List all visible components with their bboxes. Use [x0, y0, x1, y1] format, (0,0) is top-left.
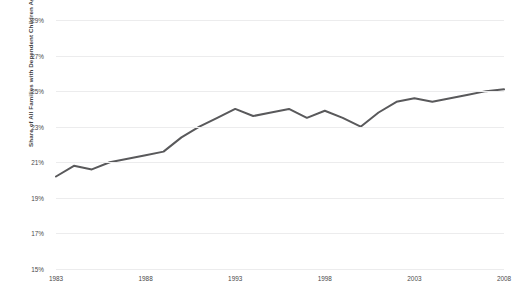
- plot-area: 29%27%25%23%21%19%17%15%1983198819931998…: [56, 20, 504, 269]
- x-axis-tick-label: 1983: [36, 275, 76, 282]
- y-axis-tick-label: 17%: [4, 230, 44, 237]
- gridline-y: [56, 91, 504, 92]
- y-axis-tick-label: 27%: [4, 52, 44, 59]
- gridline-y: [56, 127, 504, 128]
- gridline-y: [56, 20, 504, 21]
- gridline-y: [56, 56, 504, 57]
- gridline-y: [56, 269, 504, 270]
- x-axis-tick-label: 2003: [394, 275, 434, 282]
- y-axis-tick-label: 15%: [4, 266, 44, 273]
- y-axis-tick-label: 19%: [4, 194, 44, 201]
- y-axis-tick-label: 21%: [4, 159, 44, 166]
- x-axis-tick-label: 2008: [484, 275, 516, 282]
- data-series-line: [56, 20, 504, 269]
- x-axis-tick-label: 1988: [126, 275, 166, 282]
- y-axis-tick-label: 23%: [4, 123, 44, 130]
- series-polyline: [56, 89, 504, 176]
- x-axis-tick-label: 1993: [215, 275, 255, 282]
- gridline-y: [56, 162, 504, 163]
- y-axis-tick-label: 29%: [4, 17, 44, 24]
- x-axis-tick-label: 1998: [305, 275, 345, 282]
- y-axis-tick-label: 25%: [4, 88, 44, 95]
- gridline-y: [56, 198, 504, 199]
- gridline-y: [56, 233, 504, 234]
